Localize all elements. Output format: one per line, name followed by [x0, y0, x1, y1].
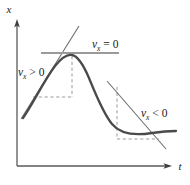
annotation-vx-zero-value: 0 — [113, 38, 119, 50]
annotation-vx-positive-value: 0 — [39, 66, 45, 78]
graph-canvas: x t vx > 0 vx = 0 vx < 0 — [0, 0, 190, 185]
annotation-vx-negative-value: 0 — [162, 107, 168, 119]
position-curve — [23, 55, 176, 134]
annotation-vx-positive: vx > 0 — [18, 66, 45, 81]
horizontal-axis-label: t — [178, 160, 182, 172]
annotation-vx-zero: vx = 0 — [92, 38, 119, 53]
position-time-graph-figure: x t vx > 0 vx = 0 vx < 0 — [0, 0, 190, 185]
vertical-axis-label: x — [6, 3, 12, 15]
annotation-vx-negative: vx < 0 — [141, 107, 168, 122]
